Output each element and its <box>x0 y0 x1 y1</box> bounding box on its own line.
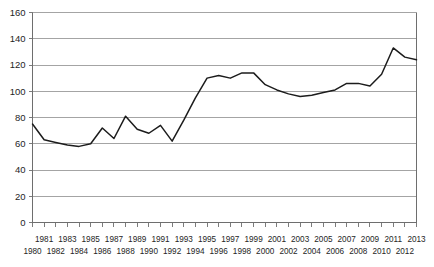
x-tick-label-1997: 1997 <box>221 235 240 244</box>
y-tick-label-0: 0 <box>20 217 25 228</box>
x-tick-label-2012: 2012 <box>396 247 415 256</box>
x-tick-label-2000: 2000 <box>256 247 275 256</box>
x-tick-label-1981: 1981 <box>35 235 54 244</box>
y-axis <box>29 13 33 223</box>
y-tick-labels: 020406080100120140160 <box>10 7 26 228</box>
x-tick-label-1985: 1985 <box>82 235 101 244</box>
y-tick-label-100: 100 <box>10 86 26 97</box>
x-tick-label-1992: 1992 <box>163 247 182 256</box>
x-tick-label-2003: 2003 <box>291 235 310 244</box>
series-line-series-1 <box>33 48 417 146</box>
x-tick-label-1987: 1987 <box>105 235 124 244</box>
gridlines <box>33 13 417 197</box>
y-tick-label-120: 120 <box>10 59 26 70</box>
x-tick-label-2011: 2011 <box>384 235 402 244</box>
x-tick-label-2001: 2001 <box>268 235 287 244</box>
x-tick-label-2006: 2006 <box>326 247 345 256</box>
x-tick-label-2004: 2004 <box>303 247 322 256</box>
x-tick-label-1983: 1983 <box>58 235 77 244</box>
y-tick-label-60: 60 <box>15 138 26 149</box>
x-tick-label-1986: 1986 <box>93 247 112 256</box>
x-tick-label-1980: 1980 <box>23 247 42 256</box>
x-tick-label-2008: 2008 <box>349 247 368 256</box>
y-tick-label-160: 160 <box>10 7 26 18</box>
x-tick-label-1982: 1982 <box>47 247 66 256</box>
x-tick-label-1990: 1990 <box>140 247 159 256</box>
x-tick-label-1984: 1984 <box>70 247 89 256</box>
x-tick-label-1991: 1991 <box>151 235 170 244</box>
chart-canvas: 020406080100120140160 198019811982198319… <box>0 0 434 267</box>
x-tick-label-1999: 1999 <box>244 235 263 244</box>
x-tick-label-2013: 2013 <box>407 235 426 244</box>
data-series <box>33 48 417 146</box>
y-tick-label-20: 20 <box>15 191 26 202</box>
x-tick-label-1989: 1989 <box>128 235 147 244</box>
x-tick-label-2002: 2002 <box>279 247 298 256</box>
line-chart: 020406080100120140160 198019811982198319… <box>0 0 434 267</box>
x-tick-label-1998: 1998 <box>233 247 252 256</box>
x-tick-label-2005: 2005 <box>314 235 333 244</box>
x-tick-labels: 1980198119821983198419851986198719881989… <box>23 235 426 256</box>
x-tick-label-1993: 1993 <box>175 235 194 244</box>
y-tick-label-140: 140 <box>10 33 26 44</box>
x-tick-label-2007: 2007 <box>338 235 357 244</box>
y-tick-label-40: 40 <box>15 164 26 175</box>
x-tick-label-2009: 2009 <box>361 235 380 244</box>
x-axis <box>33 223 417 227</box>
x-tick-label-1988: 1988 <box>116 247 135 256</box>
y-tick-label-80: 80 <box>15 112 26 123</box>
x-tick-label-1994: 1994 <box>186 247 205 256</box>
x-tick-label-2010: 2010 <box>372 247 391 256</box>
x-tick-label-1995: 1995 <box>198 235 217 244</box>
x-tick-label-1996: 1996 <box>210 247 229 256</box>
